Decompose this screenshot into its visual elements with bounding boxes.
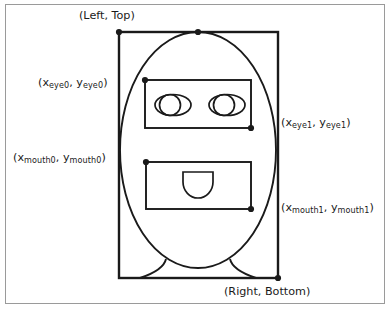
marker-head-top-center bbox=[195, 29, 201, 35]
label-mouth0: (xmouth0, ymouth0) bbox=[13, 152, 106, 165]
label-mouth0-x-sub: mouth0 bbox=[24, 156, 56, 165]
label-eye0-y-var: y bbox=[76, 76, 83, 89]
label-eye1-y-sub: eye1 bbox=[326, 121, 346, 130]
label-eye0: (xeye0, yeye0) bbox=[38, 77, 108, 90]
right-eye bbox=[209, 95, 245, 116]
label-mouth0-comma: , bbox=[56, 151, 63, 164]
label-mouth1: (xmouth1, ymouth1) bbox=[281, 202, 374, 215]
right-eye-outline-ellipse bbox=[209, 95, 245, 116]
left-eye bbox=[155, 95, 191, 116]
left-eye-outline-ellipse bbox=[155, 95, 191, 116]
label-mouth1-comma: , bbox=[324, 201, 331, 214]
label-mouth0-y-var: y bbox=[63, 151, 70, 164]
marker-mouth1 bbox=[248, 206, 254, 212]
mouth-region-rectangle bbox=[146, 162, 251, 209]
label-mouth1-y-sub: mouth1 bbox=[338, 206, 370, 215]
label-mouth1-close-paren: ) bbox=[369, 201, 373, 214]
marker-eye0 bbox=[142, 77, 148, 83]
left-eye-iris-circle bbox=[160, 95, 181, 116]
label-eye1-y-var: y bbox=[319, 116, 326, 129]
label-mouth0-y-sub: mouth0 bbox=[70, 156, 102, 165]
label-mouth0-close-paren: ) bbox=[101, 151, 105, 164]
label-right-bottom: (Right, Bottom) bbox=[224, 286, 310, 299]
label-eye1-close-paren: ) bbox=[346, 116, 350, 129]
label-eye0-x-sub: eye0 bbox=[49, 81, 69, 90]
neck-right-curve bbox=[230, 259, 256, 278]
label-mouth1-x-var: x bbox=[285, 201, 292, 214]
label-eye0-y-sub: eye0 bbox=[83, 81, 103, 90]
label-eye0-close-paren: ) bbox=[103, 76, 107, 89]
mouth-shape bbox=[183, 172, 213, 198]
right-eye-iris-circle bbox=[214, 95, 235, 116]
marker-left-top bbox=[116, 29, 122, 35]
label-mouth0-x-var: x bbox=[17, 151, 24, 164]
label-eye1-x-sub: eye1 bbox=[292, 121, 312, 130]
marker-right-bottom bbox=[275, 275, 281, 281]
marker-eye1 bbox=[248, 125, 254, 131]
head-outline-ellipse bbox=[120, 32, 276, 268]
label-mouth1-x-sub: mouth1 bbox=[292, 206, 324, 215]
figure-root: (Left, Top) (xeye0, yeye0) (xeye1, yeye1… bbox=[0, 0, 391, 310]
marker-mouth0 bbox=[143, 159, 149, 165]
label-eye0-x-var: x bbox=[42, 76, 49, 89]
label-eye1-x-var: x bbox=[285, 116, 292, 129]
label-eye1: (xeye1, yeye1) bbox=[281, 117, 351, 130]
label-mouth1-y-var: y bbox=[331, 201, 338, 214]
label-left-top: (Left, Top) bbox=[79, 10, 135, 23]
neck-left-curve bbox=[140, 259, 166, 278]
